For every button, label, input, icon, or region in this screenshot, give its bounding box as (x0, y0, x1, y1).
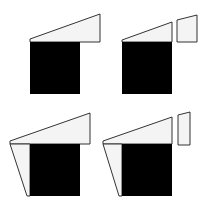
black-block (122, 42, 172, 94)
wedge-left (103, 144, 122, 196)
wedge-left (10, 144, 30, 196)
panel-top-right (122, 15, 197, 94)
black-block (30, 144, 80, 196)
panel-bottom-right (103, 112, 190, 196)
diagram-canvas (0, 0, 206, 212)
wedge-top (30, 14, 100, 42)
black-block (122, 144, 172, 196)
wedge-top (122, 22, 172, 42)
wedge-top (10, 113, 90, 144)
panel-top-left (30, 14, 100, 94)
detached-piece (178, 112, 190, 145)
wedge-top (103, 117, 172, 144)
detached-piece (177, 15, 197, 42)
black-block (30, 42, 80, 94)
panel-bottom-left (10, 113, 90, 196)
